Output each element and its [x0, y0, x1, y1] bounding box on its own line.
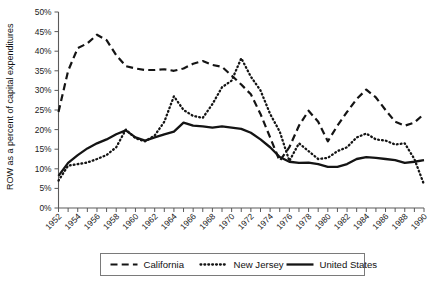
- x-tick-label: 1956: [82, 211, 102, 231]
- chart-legend: CaliforniaNew JerseyUnited States: [101, 254, 378, 276]
- y-tick-label: 15%: [35, 144, 52, 154]
- y-tick-label: 30%: [35, 85, 52, 95]
- y-tick-label: 45%: [35, 27, 52, 37]
- x-tick-label: 1964: [159, 211, 179, 231]
- x-tick-label: 1968: [197, 211, 217, 231]
- x-tick-label: 1978: [293, 211, 313, 231]
- y-tick-label: 20%: [35, 125, 52, 135]
- x-tick-label: 1952: [43, 211, 63, 231]
- x-tick-label: 1972: [236, 211, 256, 231]
- y-tick-label: 10%: [35, 164, 52, 174]
- x-axis-tick-labels: 1952195419561958196019621964196619681970…: [43, 211, 429, 231]
- legend-items: CaliforniaNew JerseyUnited States: [111, 259, 378, 270]
- chart-container: ROW as a percent of capital expenditures…: [0, 0, 432, 287]
- x-tick-label: 1982: [332, 211, 352, 231]
- line-chart: ROW as a percent of capital expenditures…: [0, 0, 432, 287]
- legend-label: California: [144, 259, 185, 270]
- x-tick-label: 1980: [312, 211, 332, 231]
- y-tick-label: 0%: [39, 203, 52, 213]
- y-tick-label: 5%: [39, 183, 52, 193]
- y-axis-label-text: ROW as a percent of capital expenditures: [5, 23, 15, 190]
- x-tick-label: 1966: [178, 211, 198, 231]
- x-tick-label: 1974: [255, 211, 275, 231]
- series-line-new-jersey: [59, 58, 425, 184]
- x-tick-label: 1954: [62, 211, 82, 231]
- x-tick-label: 1984: [351, 211, 371, 231]
- x-tick-label: 1962: [139, 211, 159, 231]
- x-tick-label: 1990: [409, 211, 429, 231]
- x-tick-label: 1976: [274, 211, 294, 231]
- y-tick-label: 35%: [35, 66, 52, 76]
- y-tick-label: 25%: [35, 105, 52, 115]
- y-axis-label: ROW as a percent of capital expenditures: [5, 23, 15, 190]
- x-tick-label: 1988: [389, 211, 409, 231]
- legend-label: United States: [320, 259, 378, 270]
- x-tick-label: 1958: [101, 211, 121, 231]
- x-tick-label: 1986: [370, 211, 390, 231]
- data-series-group: [59, 35, 425, 185]
- y-tick-label: 50%: [35, 7, 52, 17]
- x-tick-label: 1960: [120, 211, 140, 231]
- legend-label: New Jersey: [234, 259, 284, 270]
- y-axis-tick-labels: 0%5%10%15%20%25%30%35%40%45%50%: [35, 7, 52, 213]
- series-line-california: [59, 35, 425, 161]
- x-tick-label: 1970: [216, 211, 236, 231]
- y-tick-label: 40%: [35, 46, 52, 56]
